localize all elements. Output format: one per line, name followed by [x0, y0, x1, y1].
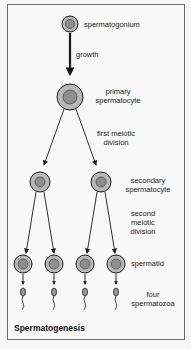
division-arrow	[26, 192, 36, 253]
label-first-meiotic-division: first meiotic division	[88, 129, 144, 147]
label-line: first meiotic	[88, 129, 144, 138]
label-line: spermatocyte	[120, 185, 176, 194]
spermatogonium-cell	[62, 16, 78, 32]
label-line: division	[123, 227, 163, 236]
division-arrow	[44, 109, 64, 165]
label-line: primary	[90, 87, 146, 96]
label-spermatogonium: spermatogonium	[84, 20, 140, 29]
label-second-meiotic-division: second meiotic division	[123, 209, 163, 236]
spermatozoon	[83, 288, 88, 310]
label-line: second	[123, 209, 163, 218]
label-spermatid: spermatid	[131, 259, 164, 268]
division-arrow	[44, 192, 54, 253]
label-secondary-spermatocyte: secondary spermatocyte	[120, 176, 176, 194]
label-four-spermatozoa: four spermatozoa	[128, 290, 178, 308]
label-line: spermatozoa	[128, 299, 178, 308]
label-primary-spermatocyte: primary spermatocyte	[90, 87, 146, 105]
spermatid-cell	[14, 255, 32, 273]
spermatid-cell	[76, 255, 94, 273]
secondary-spermatocyte-cell	[91, 172, 111, 192]
label-line: division	[88, 138, 144, 147]
label-line: meiotic	[123, 218, 163, 227]
diagram-title: Spermatogenesis	[14, 323, 85, 333]
label-line: spermatocyte	[90, 96, 146, 105]
primary-spermatocyte-cell	[57, 84, 83, 110]
spermatid-cell	[107, 255, 125, 273]
division-arrow	[87, 192, 97, 253]
label-line: secondary	[120, 176, 176, 185]
spermatozoon	[114, 288, 119, 310]
division-arrow	[105, 192, 115, 253]
label-line: four	[128, 290, 178, 299]
label-growth: growth	[76, 50, 99, 59]
spermatozoon	[52, 288, 57, 310]
secondary-spermatocyte-cell	[30, 172, 50, 192]
spermatozoon	[21, 288, 26, 310]
spermatid-cell	[45, 255, 63, 273]
